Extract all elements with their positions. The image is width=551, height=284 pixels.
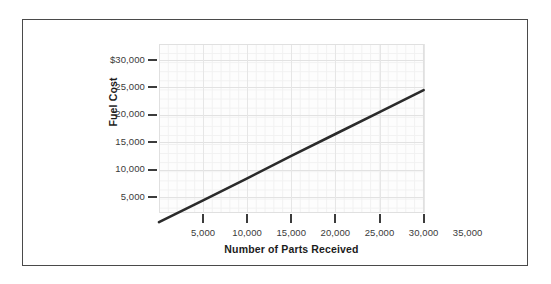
y-axis-title: Fuel Cost — [107, 67, 119, 137]
x-axis-tick-mark — [202, 214, 204, 223]
x-axis-tick-mark — [423, 214, 425, 223]
x-axis-tick-mark — [290, 214, 292, 223]
x-axis-tick-label: 15,000 — [276, 227, 306, 238]
x-axis-tick-mark — [334, 214, 336, 223]
x-axis-tick-mark — [246, 214, 248, 223]
x-axis-tick-label: 10,000 — [232, 227, 262, 238]
y-axis-tick-mark — [148, 86, 157, 88]
y-axis-tick-labels: 5,00010,00015,00020,00025,000$30,000 — [95, 0, 145, 284]
plot-area — [159, 44, 424, 213]
y-axis-tick-mark — [148, 196, 157, 198]
x-axis-tick-label: 5,000 — [191, 227, 215, 238]
x-axis-tick-label: 30,000 — [409, 227, 439, 238]
y-axis-tick-label: 15,000 — [115, 136, 145, 147]
y-axis-tick-mark — [148, 114, 157, 116]
y-axis-tick-label: $30,000 — [110, 54, 145, 65]
y-axis-tick-label: 25,000 — [115, 81, 145, 92]
y-axis-tick-label: 5,000 — [121, 191, 145, 202]
x-axis-tick-label: 25,000 — [365, 227, 395, 238]
y-axis-tick-label: 20,000 — [115, 108, 145, 119]
x-axis-tick-label: 35,000 — [453, 227, 483, 238]
y-axis-tick-mark — [148, 59, 157, 61]
series-line-fuel-cost — [159, 90, 424, 222]
chart-figure: 5,00010,00015,00020,00025,000$30,000 5,0… — [0, 0, 551, 284]
x-axis-tick-mark — [379, 214, 381, 223]
series-line-chart — [159, 44, 424, 213]
y-axis-tick-mark — [148, 141, 157, 143]
y-axis-tick-mark — [148, 169, 157, 171]
x-axis-title: Number of Parts Received — [159, 243, 424, 255]
x-axis-tick-label: 20,000 — [321, 227, 351, 238]
y-axis-tick-label: 10,000 — [115, 163, 145, 174]
